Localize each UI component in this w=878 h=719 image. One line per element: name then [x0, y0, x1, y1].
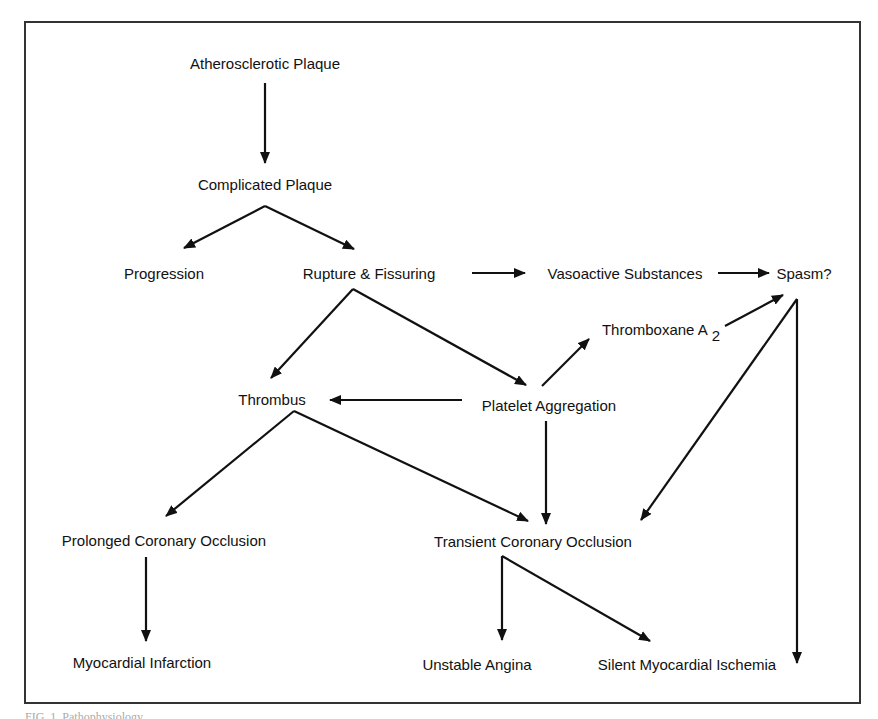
- edge-transient-to-silent: [502, 556, 650, 641]
- node-progression: Progression: [124, 265, 204, 283]
- node-unstable-angina: Unstable Angina: [422, 656, 531, 674]
- node-rupture-fissuring: Rupture & Fissuring: [303, 265, 436, 283]
- node-myocardial-infarction: Myocardial Infarction: [73, 654, 211, 672]
- node-silent-myocardial-ischemia: Silent Myocardial Ischemia: [598, 656, 776, 674]
- node-complicated-plaque: Complicated Plaque: [198, 176, 332, 194]
- node-thromboxane-a2: Thromboxane A2: [602, 321, 720, 339]
- node-platelet-aggregation: Platelet Aggregation: [482, 397, 616, 415]
- node-spasm: Spasm?: [776, 265, 831, 283]
- edge-thromboxane-to-spasm: [725, 295, 783, 326]
- edge-thrombus-to-prolonged: [166, 411, 294, 516]
- node-thromboxane-label: Thromboxane A: [602, 321, 708, 338]
- edge-rupture-to-platelet: [353, 289, 526, 385]
- node-transient-coronary-occlusion: Transient Coronary Occlusion: [434, 533, 632, 551]
- edge-thrombus-to-transient: [294, 411, 528, 521]
- node-atherosclerotic-plaque: Atherosclerotic Plaque: [190, 55, 340, 73]
- edge-complicated-to-rupture: [265, 206, 354, 249]
- edge-rupture-to-thrombus: [271, 289, 353, 378]
- edge-complicated-to-progression: [184, 206, 265, 248]
- node-thrombus: Thrombus: [238, 391, 306, 409]
- edge-platelet-to-thromboxane: [542, 339, 589, 386]
- diagram-edges: [0, 0, 878, 719]
- node-vasoactive-substances: Vasoactive Substances: [548, 265, 703, 283]
- node-prolonged-coronary-occlusion: Prolonged Coronary Occlusion: [62, 532, 266, 550]
- figure-caption: FIG. 1. Pathophysiology: [25, 710, 143, 719]
- node-thromboxane-subscript: 2: [712, 327, 720, 344]
